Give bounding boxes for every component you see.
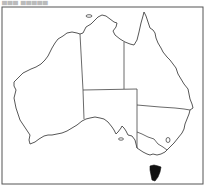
border-nsw-vic <box>137 132 167 150</box>
border-qld-nsw <box>137 105 190 110</box>
border-nt-sa <box>83 89 137 90</box>
melville-island <box>86 15 92 18</box>
border-wa <box>80 34 84 119</box>
act-outline <box>166 138 170 143</box>
tasmania-highlight <box>150 165 161 181</box>
australia-map <box>0 0 206 186</box>
map-frame <box>2 7 203 184</box>
state-borders <box>80 34 190 150</box>
mainland-outline <box>14 12 193 155</box>
kangaroo-island <box>119 138 124 140</box>
